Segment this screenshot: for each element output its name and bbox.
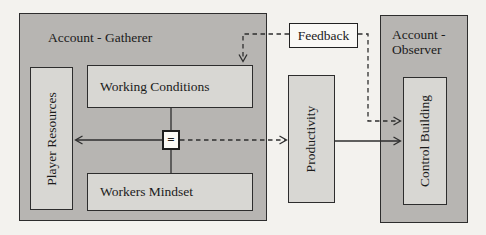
node-control-building: Control Building	[403, 77, 447, 205]
node-equals-label: =	[167, 132, 174, 148]
node-workers-mindset-label: Workers Mindset	[88, 174, 252, 210]
node-feedback-label: Feedback	[298, 28, 350, 44]
diagram-canvas: Account - Gatherer Account - Observer Pl…	[0, 0, 486, 235]
node-productivity-label: Productivity	[304, 106, 320, 173]
node-workers-mindset: Workers Mindset	[87, 173, 253, 211]
node-working-conditions-label: Working Conditions	[88, 66, 252, 107]
node-productivity: Productivity	[288, 75, 335, 203]
node-working-conditions: Working Conditions	[87, 65, 253, 108]
node-feedback: Feedback	[289, 23, 358, 48]
group-account-gatherer-label: Account - Gatherer	[20, 14, 266, 45]
node-player-resources-label: Player Resources	[44, 92, 60, 185]
node-player-resources: Player Resources	[30, 67, 73, 210]
node-control-building-label: Control Building	[417, 95, 433, 187]
node-equals: =	[162, 130, 180, 150]
group-account-observer-label: Account - Observer	[381, 16, 456, 57]
